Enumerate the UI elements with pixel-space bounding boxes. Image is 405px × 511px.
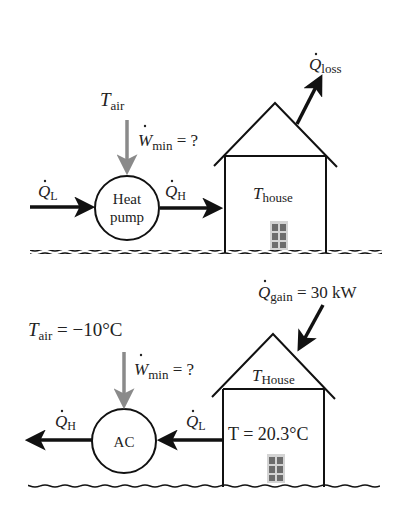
qloss-arrow [297, 79, 320, 124]
svg-text:Wmin = ?: Wmin = ? [138, 131, 198, 153]
svg-text:QL: QL [38, 182, 58, 203]
ground-line-top [30, 250, 382, 254]
svg-text:QH: QH [55, 412, 76, 433]
t-house-label-bottom: THouse [252, 366, 295, 387]
w-min-label-top: Wmin = ? [138, 125, 198, 153]
svg-text:Qgain = 30 kW: Qgain = 30 kW [258, 283, 358, 304]
t-air-label-bottom: Tair = −10°C [28, 319, 123, 343]
ql-label-bottom: QL [186, 410, 206, 433]
ac-label: AC [114, 434, 135, 450]
bottom-diagram: AC Tair = −10°C Wmin = ? QH QL Qgain = 3… [28, 280, 380, 488]
house-bottom [212, 334, 335, 487]
house-top [214, 103, 337, 253]
top-diagram: Heat pump Tair Wmin = ? QL QH Qloss Thou… [30, 53, 382, 254]
heat-pump-ac-diagram: Heat pump Tair Wmin = ? QL QH Qloss Thou… [0, 0, 405, 511]
ground-line-bottom [28, 484, 380, 488]
qh-label-bottom: QH [55, 410, 76, 433]
qgain-arrow [300, 305, 323, 347]
t-house-label-top: Thouse [253, 184, 293, 205]
heat-pump-label-2: pump [110, 209, 144, 225]
t-house-value: T = 20.3°C [228, 424, 309, 444]
qloss-label: Qloss [309, 53, 342, 76]
heat-pump-label-1: Heat [113, 191, 142, 207]
svg-text:Wmin = ?: Wmin = ? [134, 360, 194, 382]
qh-label-top: QH [165, 180, 186, 203]
qgain-label: Qgain = 30 kW [258, 280, 358, 304]
heat-pump-circle [95, 176, 159, 240]
door-icon [267, 454, 285, 483]
svg-text:Qloss: Qloss [309, 55, 342, 76]
w-min-label-bottom: Wmin = ? [134, 354, 194, 382]
ql-label-top: QL [38, 180, 58, 203]
svg-text:QL: QL [186, 412, 206, 433]
door-icon [270, 221, 288, 250]
t-air-label-top: Tair [100, 89, 125, 113]
svg-text:QH: QH [165, 182, 186, 203]
